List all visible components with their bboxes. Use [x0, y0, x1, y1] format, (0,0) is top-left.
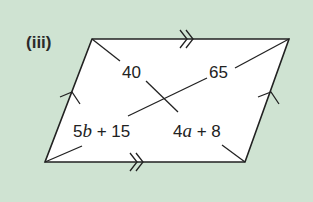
rest: + 15 [92, 122, 130, 141]
label-4a-plus-8: 4a + 8 [173, 121, 221, 140]
label-5b-plus-15: 5b + 15 [73, 121, 130, 140]
rest: + 8 [192, 122, 221, 141]
label-65: 65 [209, 64, 228, 81]
label-40: 40 [122, 64, 141, 81]
variable-a: a [182, 120, 192, 141]
part-label: (iii) [26, 33, 52, 53]
variable-b: b [82, 120, 92, 141]
parallelogram-diagram [0, 0, 313, 202]
